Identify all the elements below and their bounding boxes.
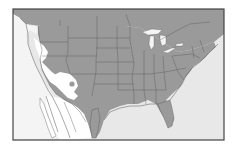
range-map [0, 0, 239, 147]
range-isolated-patch [69, 81, 74, 86]
